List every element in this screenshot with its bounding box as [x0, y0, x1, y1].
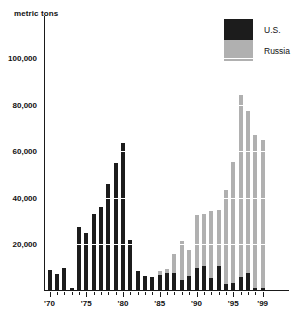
bar-column — [150, 277, 154, 290]
bar-segment-russia — [180, 241, 184, 279]
x-axis-minor-tick — [255, 292, 256, 295]
bar-column — [48, 270, 52, 290]
bar-segment-us — [261, 288, 265, 290]
x-axis-tick-label: '80 — [118, 299, 129, 308]
bar-segment-us — [114, 163, 118, 290]
bar-segment-russia — [195, 215, 199, 267]
bar-segment-russia — [246, 111, 250, 273]
bar-column — [99, 207, 103, 290]
bar-segment-us — [128, 240, 132, 290]
x-axis-major-tick — [50, 292, 51, 297]
bar-segment-us — [121, 143, 125, 290]
x-axis-major-tick — [197, 292, 198, 297]
bar-segment-us — [187, 276, 191, 290]
y-axis-tick-label: 80,000 — [13, 100, 37, 109]
x-axis-minor-tick — [174, 292, 175, 295]
bar-segment-russia — [209, 211, 213, 279]
bar-column — [231, 162, 235, 290]
bar-segment-us — [150, 277, 154, 290]
x-axis-minor-tick — [101, 292, 102, 295]
bar-segment-us — [202, 266, 206, 290]
bar-segment-us — [180, 280, 184, 290]
bar-column — [172, 254, 176, 290]
x-axis-major-tick — [233, 292, 234, 297]
bar-segment-russia — [261, 140, 265, 288]
bar-segment-us — [172, 273, 176, 290]
x-axis-minor-tick — [182, 292, 183, 295]
bar-segment-us — [55, 274, 59, 290]
bar-column — [106, 184, 110, 290]
bar-column — [195, 215, 199, 290]
x-axis-minor-tick — [79, 292, 80, 295]
x-axis-line — [44, 290, 289, 291]
bar-segment-us — [77, 227, 81, 290]
bar-column — [180, 241, 184, 290]
bar-column — [158, 271, 162, 290]
bar-segment-russia — [158, 271, 162, 274]
x-axis-tick-label: '95 — [228, 299, 239, 308]
bar-segment-us — [253, 288, 257, 290]
bar-segment-russia — [239, 95, 243, 277]
bar-column — [187, 250, 191, 290]
x-axis-minor-tick — [167, 292, 168, 295]
x-axis-minor-tick — [189, 292, 190, 295]
bar-segment-russia — [253, 135, 257, 288]
bar-column — [92, 214, 96, 290]
x-axis-minor-tick — [94, 292, 95, 295]
bar-segment-us — [48, 270, 52, 290]
bar-segment-russia — [217, 210, 221, 266]
bar-segment-russia — [172, 254, 176, 273]
x-axis-major-tick — [263, 292, 264, 297]
bar-segment-us — [239, 277, 243, 290]
bar-column — [217, 210, 221, 290]
bar-segment-us — [217, 266, 221, 290]
y-axis-tick-label: 40,000 — [13, 193, 37, 202]
x-axis-minor-tick — [130, 292, 131, 295]
bar-series-container — [45, 16, 289, 290]
bar-segment-russia — [187, 250, 191, 276]
bar-segment-us — [106, 184, 110, 290]
bar-column — [246, 111, 250, 290]
bar-column — [165, 269, 169, 290]
x-axis-minor-tick — [145, 292, 146, 295]
bar-segment-us — [143, 276, 147, 290]
x-axis-major-tick — [160, 292, 161, 297]
plot-area: 20,00040,00060,00080,000100,000 — [44, 16, 289, 291]
bar-segment-us — [99, 207, 103, 290]
x-axis-ticks — [45, 292, 289, 297]
x-axis-minor-tick — [152, 292, 153, 295]
x-axis-minor-tick — [108, 292, 109, 295]
x-axis-tick-label: '99 — [257, 299, 268, 308]
bar-segment-us — [195, 268, 199, 290]
bar-segment-russia — [202, 214, 206, 265]
x-axis-tick-label: '85 — [154, 299, 165, 308]
bar-column — [239, 95, 243, 290]
bar-segment-us — [92, 214, 96, 290]
x-axis-minor-tick — [116, 292, 117, 295]
bar-column — [143, 276, 147, 290]
x-axis-minor-tick — [138, 292, 139, 295]
bar-column — [128, 240, 132, 290]
x-axis-minor-tick — [204, 292, 205, 295]
x-axis-minor-tick — [57, 292, 58, 295]
bar-segment-us — [209, 278, 213, 290]
bar-segment-russia — [165, 269, 169, 272]
x-axis-tick-label: '70 — [44, 299, 55, 308]
x-axis-minor-tick — [64, 292, 65, 295]
bar-segment-russia — [224, 190, 228, 284]
bar-column — [202, 214, 206, 290]
bar-segment-us — [70, 288, 74, 290]
bar-segment-us — [158, 275, 162, 290]
bar-column — [209, 211, 213, 290]
bar-column — [224, 190, 228, 290]
bar-segment-us — [224, 284, 228, 290]
x-axis-minor-tick — [226, 292, 227, 295]
bar-segment-us — [165, 273, 169, 290]
bar-segment-us — [246, 273, 250, 290]
bar-segment-us — [231, 283, 235, 290]
bar-column — [253, 135, 257, 290]
x-axis-tick-label: '90 — [191, 299, 202, 308]
bar-segment-us — [84, 233, 88, 290]
x-axis-minor-tick — [241, 292, 242, 295]
bar-column — [114, 163, 118, 290]
